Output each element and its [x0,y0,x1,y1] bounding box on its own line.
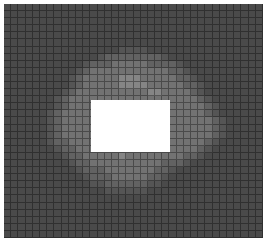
mosaic-cell [54,32,61,39]
mosaic-cell [220,146,227,153]
mosaic-cell [4,11,11,18]
mosaic-cell [83,18,90,25]
mosaic-cell [177,4,184,11]
mosaic-cell [105,153,112,160]
mosaic-cell [98,89,105,96]
mosaic-cell [11,167,18,174]
mosaic-cell [177,117,184,124]
mosaic-cell [256,139,263,146]
mosaic-cell [177,160,184,167]
mosaic-cell [205,11,212,18]
mosaic-cell [220,153,227,160]
mosaic-cell [26,160,33,167]
mosaic-cell [227,103,234,110]
mosaic-cell [256,25,263,32]
mosaic-cell [105,181,112,188]
mosaic-cell [112,195,119,202]
mosaic-cell [112,203,119,210]
mosaic-cell [83,61,90,68]
mosaic-cell [47,231,54,238]
mosaic-cell [162,54,169,61]
mosaic-cell [33,68,40,75]
mosaic-cell [4,146,11,153]
mosaic-cell [256,103,263,110]
mosaic-cell [112,210,119,217]
mosaic-cell [134,203,141,210]
mosaic-cell [256,117,263,124]
mosaic-cell [105,160,112,167]
mosaic-cell [256,89,263,96]
mosaic-cell [162,217,169,224]
mosaic-cell [33,167,40,174]
mosaic-cell [213,188,220,195]
mosaic-cell [134,224,141,231]
mosaic-cell [134,210,141,217]
mosaic-cell [11,139,18,146]
mosaic-cell [213,195,220,202]
mosaic-cell [184,210,191,217]
mosaic-cell [169,96,176,103]
mosaic-cell [241,195,248,202]
mosaic-cell [4,231,11,238]
mosaic-cell [62,68,69,75]
mosaic-cell [184,18,191,25]
mosaic-cell [76,32,83,39]
mosaic-cell [11,160,18,167]
mosaic-cell [33,146,40,153]
mosaic-cell [112,167,119,174]
mosaic-cell [227,4,234,11]
mosaic-cell [33,110,40,117]
mosaic-cell [47,181,54,188]
mosaic-cell [76,89,83,96]
mosaic-cell [134,39,141,46]
mosaic-cell [26,61,33,68]
mosaic-cell [227,11,234,18]
mosaic-cell [62,210,69,217]
mosaic-cell [4,117,11,124]
mosaic-cell [76,217,83,224]
mosaic-cell [220,139,227,146]
mosaic-cell [47,68,54,75]
mosaic-cell [105,195,112,202]
mosaic-cell [155,153,162,160]
mosaic-cell [241,4,248,11]
mosaic-cell [205,61,212,68]
mosaic-cell [198,210,205,217]
mosaic-cell [126,18,133,25]
mosaic-cell [162,47,169,54]
mosaic-cell [184,203,191,210]
mosaic-cell [213,61,220,68]
mosaic-cell [90,68,97,75]
mosaic-cell [169,75,176,82]
mosaic-cell [83,11,90,18]
mosaic-cell [234,103,241,110]
mosaic-cell [105,68,112,75]
mosaic-cell [134,4,141,11]
mosaic-cell [169,25,176,32]
mosaic-cell [47,146,54,153]
mosaic-cell [155,203,162,210]
mosaic-cell [112,89,119,96]
mosaic-cell [241,18,248,25]
mosaic-cell [112,153,119,160]
mosaic-cell [47,210,54,217]
mosaic-cell [249,174,256,181]
mosaic-cell [105,75,112,82]
mosaic-cell [227,125,234,132]
mosaic-cell [205,174,212,181]
mosaic-cell [234,32,241,39]
mosaic-cell [148,217,155,224]
mosaic-cell [18,139,25,146]
mosaic-cell [256,54,263,61]
mosaic-cell [213,89,220,96]
mosaic-cell [40,139,47,146]
mosaic-cell [11,68,18,75]
mosaic-cell [177,96,184,103]
mosaic-cell [26,4,33,11]
mosaic-cell [249,25,256,32]
mosaic-cell [54,82,61,89]
mosaic-cell [191,181,198,188]
mosaic-cell [18,11,25,18]
mosaic-cell [119,75,126,82]
mosaic-cell [90,231,97,238]
